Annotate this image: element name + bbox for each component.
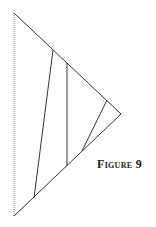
inner-lines-group bbox=[34, 50, 107, 198]
figure-caption: Figure 9 bbox=[97, 157, 142, 172]
inner-line-3 bbox=[82, 100, 107, 151]
inner-line-1 bbox=[34, 50, 53, 198]
figure-diagram bbox=[0, 0, 156, 227]
